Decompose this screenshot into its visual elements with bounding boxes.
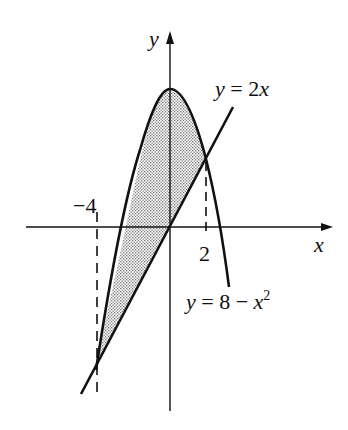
line-equation-label: y = 2x: [213, 76, 269, 101]
tick-label-neg4: −4: [73, 193, 96, 218]
region-diagram: y x −4 2 y = 2x y = 8 − x2: [0, 0, 348, 430]
tick-label-2: 2: [199, 241, 210, 266]
parabola-equation-label: y = 8 − x2: [184, 288, 270, 314]
x-axis-label: x: [313, 232, 324, 257]
y-axis-arrow-icon: [166, 31, 174, 44]
x-axis-arrow-icon: [321, 223, 333, 231]
parabola-exponent: 2: [263, 288, 270, 303]
y-axis-label: y: [147, 26, 159, 51]
